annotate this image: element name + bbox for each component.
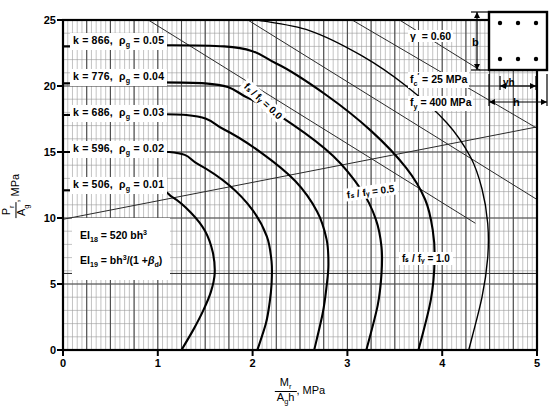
column-section-sketch [455, 6, 551, 112]
section-h-label: h [513, 96, 520, 108]
fs-fy-label-10: fₛ / fᵧ = 1.0 [399, 252, 453, 265]
legend-gamma: γ = 0.60 [408, 30, 453, 42]
curve-label-rho-003: k = 686, ρg = 0.03 [70, 105, 167, 122]
section-gamma-h-label: γh [503, 77, 515, 88]
curve-label-rho-002: k = 596, ρg = 0.02 [70, 141, 167, 158]
curve-label-rho-001: k = 506, ρg = 0.01 [70, 177, 167, 194]
ei-note-line-1: EI18 = 520 bh3 [80, 224, 162, 249]
section-b-label: b [472, 36, 479, 48]
curve-label-rho-005: k = 866, ρg = 0.05 [70, 33, 167, 50]
ei-note-line-2: EI19 = bh3/(1 +βd) [80, 249, 162, 274]
chart-root: 25 20 15 10 5 0 Pr Ag , MPa 0 1 2 3 4 5 … [0, 0, 551, 407]
ei-note-box: EI18 = 520 bh3 EI19 = bh3/(1 +βd) [72, 218, 170, 280]
curve-label-rho-004: k = 776, ρg = 0.04 [70, 69, 167, 86]
